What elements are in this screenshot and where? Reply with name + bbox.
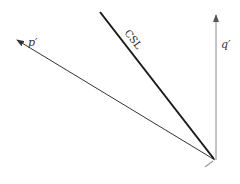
p-axis-line: [17, 40, 215, 160]
csl-line: [100, 12, 214, 159]
origin-small-arrow: [205, 161, 213, 167]
stress-path-diagram: p′ q′ CSL: [0, 0, 240, 184]
q-axis-label: q′: [221, 38, 231, 51]
p-axis-label: p′: [28, 36, 38, 49]
csl-label: CSL: [122, 27, 144, 51]
